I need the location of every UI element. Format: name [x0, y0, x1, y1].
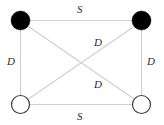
graph-canvas [0, 0, 164, 125]
edge-label-diagonal-upper: D [94, 37, 102, 48]
top-left-node [11, 11, 30, 30]
edges-group [21, 21, 142, 105]
graph-diagram: S D D D D S [0, 0, 164, 125]
edge-label-left: D [7, 56, 15, 67]
edge-label-bottom: S [77, 111, 83, 122]
edge-label-top: S [77, 4, 83, 15]
edge-label-diagonal-lower: D [94, 79, 102, 90]
bottom-right-node [133, 96, 151, 114]
bottom-left-node [12, 96, 30, 114]
top-right-node [132, 11, 151, 30]
edge-label-right: D [147, 56, 155, 67]
